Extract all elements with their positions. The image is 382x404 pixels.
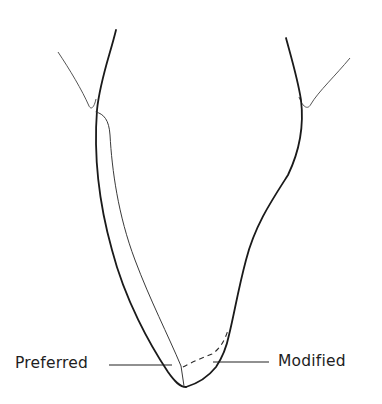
modified-label: Modified (278, 354, 346, 370)
tooth-drawing (0, 0, 382, 404)
preferred-preparation-line (96, 112, 184, 386)
right-outer-outline (186, 38, 302, 387)
right-gum-line (299, 58, 350, 107)
left-gum-line (58, 52, 96, 108)
preferred-label: Preferred (15, 356, 88, 372)
left-outer-outline (96, 30, 186, 387)
tooth-diagram: Preferred Modified (0, 0, 382, 404)
